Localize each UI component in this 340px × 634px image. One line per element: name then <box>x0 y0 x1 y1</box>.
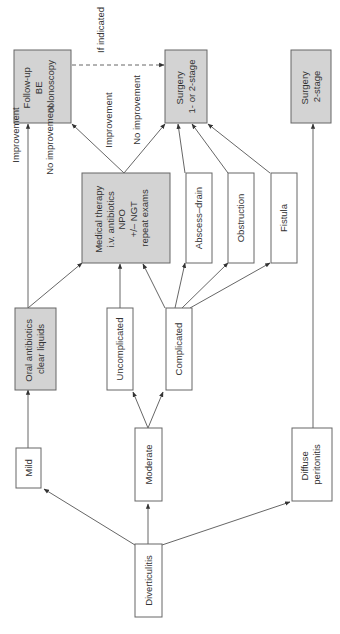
edge-complicated-obstruction <box>182 263 228 308</box>
node-follow-up: Follow-up BE colonoscopy <box>14 50 71 123</box>
node-moderate: Moderate <box>135 428 162 501</box>
edge-complicated-fistula <box>190 263 270 308</box>
edge-fistula-surgery12 <box>208 124 270 173</box>
edge-obstruction-surgery12 <box>192 124 228 173</box>
node-surgery-2-stage: Surgery 2-stage <box>291 50 331 123</box>
diverticulitis-flowchart: Diverticulitis Mild Moderate Diffuse per… <box>0 0 340 634</box>
node-medical-therapy: Medical therapy i.v. antibiotics NPO +/–… <box>82 173 170 263</box>
svg-text:Surgery 2-stage: Surgery 2-stage <box>299 69 322 105</box>
edge-oral-medical <box>28 263 82 308</box>
label-medical-improvement: Improvement <box>103 92 114 148</box>
svg-text:Moderate: Moderate <box>143 444 154 484</box>
node-oral-antibiotics: Oral antibiotics clear liquids <box>15 308 56 390</box>
edge-moderate-uncomplicated <box>133 392 148 428</box>
svg-text:Fistula: Fistula <box>278 203 289 232</box>
edge-complicated-medical <box>143 264 165 308</box>
svg-text:Abscess–drain: Abscess–drain <box>193 187 204 249</box>
node-abscess-drain: Abscess–drain <box>186 173 212 263</box>
svg-text:Obstruction: Obstruction <box>235 194 246 243</box>
svg-text:Oral antibiotics clear l: Oral antibiotics clear liquids <box>23 316 46 381</box>
edge-moderate-complicated <box>148 392 163 428</box>
node-mild: Mild <box>16 448 41 488</box>
label-if-indicated: If indicated <box>95 7 106 53</box>
node-surgery-1-or-2-stage: Surgery 1- or 2-stage <box>165 50 207 123</box>
label-medical-no-improvement: No improvement <box>131 75 142 145</box>
svg-text:Mild: Mild <box>23 459 34 476</box>
node-obstruction: Obstruction <box>228 173 254 263</box>
svg-text:Complicated: Complicated <box>173 323 184 376</box>
edge-medical-followup <box>72 124 124 173</box>
svg-text:Diffuse peritonitis: Diffuse peritonitis <box>299 444 322 485</box>
edge-abscess-surgery12 <box>178 124 185 173</box>
svg-text:Uncomplicated: Uncomplicated <box>114 318 125 381</box>
edges <box>28 65 313 545</box>
node-complicated: Complicated <box>166 308 192 390</box>
label-oral-no-improvement: No improvement <box>44 105 55 175</box>
edge-diverticulitis-mild <box>44 489 135 545</box>
svg-text:Diverticulitis: Diverticulitis <box>143 555 154 606</box>
node-diffuse-peritonitis: Diffuse peritonitis <box>292 428 332 501</box>
node-diverticulitis: Diverticulitis <box>135 544 162 617</box>
label-oral-improvement: Improvement <box>10 107 21 163</box>
node-fistula: Fistula <box>271 173 297 263</box>
edge-diverticulitis-diffuse <box>162 502 290 545</box>
node-uncomplicated: Uncomplicated <box>107 308 133 390</box>
edge-complicated-abscess <box>175 263 185 308</box>
